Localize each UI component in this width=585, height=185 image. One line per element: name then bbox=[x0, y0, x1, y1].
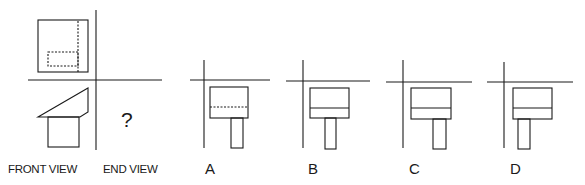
front-view-sloped-top bbox=[38, 88, 88, 117]
option-d-stem bbox=[518, 119, 530, 149]
option-c-block bbox=[411, 88, 451, 119]
option-a-drawing[interactable] bbox=[190, 60, 270, 148]
option-b-drawing[interactable] bbox=[286, 60, 370, 149]
option-b-stem bbox=[325, 118, 336, 149]
option-a-block bbox=[210, 87, 248, 118]
orthographic-projection-question: ? FRONT VIEW END VIEW A B C D bbox=[0, 0, 585, 185]
end-view-label: END VIEW bbox=[103, 163, 157, 175]
option-a-stem bbox=[231, 118, 243, 148]
top-view-outline bbox=[38, 20, 88, 72]
front-view bbox=[38, 88, 88, 147]
option-c-stem bbox=[433, 119, 446, 149]
top-view bbox=[38, 20, 88, 72]
diagram-drawing bbox=[0, 0, 585, 185]
option-a-label[interactable]: A bbox=[205, 160, 215, 177]
option-b-block bbox=[310, 88, 349, 118]
option-b-label[interactable]: B bbox=[308, 160, 318, 177]
front-view-block bbox=[48, 117, 79, 147]
unknown-end-view-mark: ? bbox=[121, 108, 133, 132]
top-view-hidden-rect bbox=[48, 52, 78, 66]
option-c-label[interactable]: C bbox=[409, 160, 420, 177]
option-d-label[interactable]: D bbox=[510, 160, 521, 177]
front-view-label: FRONT VIEW bbox=[8, 163, 77, 175]
option-c-drawing[interactable] bbox=[386, 60, 472, 149]
question-quadrant bbox=[28, 10, 162, 150]
option-d-drawing[interactable] bbox=[487, 62, 573, 149]
option-d-block bbox=[513, 88, 552, 119]
